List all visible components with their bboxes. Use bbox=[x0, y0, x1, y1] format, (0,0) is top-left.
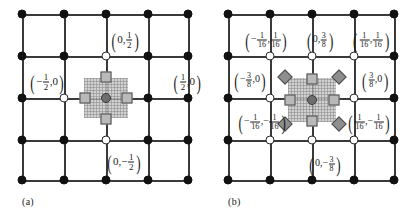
grid-node-open bbox=[144, 94, 153, 103]
fraction-one-sixteenth: 116 bbox=[257, 31, 267, 48]
grid-node-filled bbox=[144, 176, 153, 185]
fraction-one-sixteenth: 116 bbox=[271, 31, 281, 48]
grid-node-filled bbox=[102, 10, 111, 19]
grid-node-open bbox=[60, 94, 69, 103]
grid-node-open bbox=[350, 52, 359, 61]
grid-node-filled bbox=[224, 94, 233, 103]
stencil-square-east bbox=[122, 93, 133, 104]
fraction-one-half: 12 bbox=[128, 152, 135, 171]
stencil-square-west bbox=[285, 95, 296, 106]
grid-b: (−116,116) (0,38) (116,116) (−38,0) (38,… bbox=[228, 14, 396, 182]
grid-node-filled bbox=[18, 136, 27, 145]
stencil-square-west bbox=[80, 93, 91, 104]
grid-node-filled bbox=[390, 94, 399, 103]
grid-node-filled bbox=[60, 136, 69, 145]
label-west: (−38,0) bbox=[233, 72, 267, 89]
coord-y: 0 bbox=[52, 75, 58, 87]
fraction-one-sixteenth: 116 bbox=[373, 31, 383, 48]
coord-y: 0 bbox=[255, 73, 260, 84]
grid-node-filled bbox=[18, 10, 27, 19]
grid-node-filled bbox=[102, 176, 111, 185]
grid-node-filled bbox=[144, 52, 153, 61]
label-north: (0,38) bbox=[306, 32, 335, 49]
minus-sign: − bbox=[240, 73, 246, 84]
stencil-square-east bbox=[329, 95, 340, 106]
fraction-one-sixteenth: 116 bbox=[269, 113, 279, 130]
grid-node-filled bbox=[308, 10, 317, 19]
grid-node-filled bbox=[224, 176, 233, 185]
stencil-square-south bbox=[101, 114, 112, 125]
minus-sign: − bbox=[244, 115, 250, 126]
grid-node-filled bbox=[350, 176, 359, 185]
grid-node-filled bbox=[224, 10, 233, 19]
label-southeast: (116,−116) bbox=[347, 114, 391, 131]
label-west: (−12,0) bbox=[29, 73, 65, 92]
stencil-square-north bbox=[307, 74, 318, 85]
fraction-one-sixteenth: 116 bbox=[354, 113, 364, 130]
minus-sign: − bbox=[322, 157, 328, 168]
panel-caption-a: (a) bbox=[22, 196, 34, 207]
minus-sign: − bbox=[36, 75, 42, 87]
grid-node-open bbox=[350, 94, 359, 103]
grid-node-filled bbox=[60, 10, 69, 19]
panel-b: (−116,116) (0,38) (116,116) (−38,0) (38,… bbox=[210, 0, 420, 224]
figure-root: (0,12) (−12,0) (12,0) (0,−12) (a) bbox=[0, 0, 420, 224]
coord-y: 0 bbox=[189, 75, 195, 87]
grid-node-filled bbox=[390, 52, 399, 61]
grid-node-filled bbox=[60, 52, 69, 61]
grid-a: (0,12) (−12,0) (12,0) (0,−12) bbox=[22, 14, 190, 182]
grid-node-open bbox=[308, 136, 317, 145]
grid-node-filled bbox=[184, 136, 193, 145]
panel-caption-b: (b) bbox=[228, 196, 241, 207]
grid-node-filled bbox=[350, 10, 359, 19]
fraction-three-eighths: 38 bbox=[368, 71, 374, 88]
coord-y: 0 bbox=[377, 73, 382, 84]
fraction-one-half: 12 bbox=[43, 72, 50, 91]
grid-node-open bbox=[266, 94, 275, 103]
grid-node-filled bbox=[184, 52, 193, 61]
grid-node-filled bbox=[18, 52, 27, 61]
grid-node-filled bbox=[266, 10, 275, 19]
grid-node-open bbox=[308, 52, 317, 61]
grid-node-filled bbox=[390, 136, 399, 145]
grid-node-filled bbox=[184, 94, 193, 103]
fraction-one-sixteenth: 116 bbox=[374, 113, 384, 130]
grid-node-open bbox=[102, 136, 111, 145]
panel-a: (0,12) (−12,0) (12,0) (0,−12) (a) bbox=[0, 0, 210, 224]
fraction-one-sixteenth: 116 bbox=[250, 113, 260, 130]
grid-node-open bbox=[350, 136, 359, 145]
label-south: (0,−38) bbox=[308, 156, 342, 173]
minus-sign: − bbox=[263, 115, 269, 126]
fraction-three-eighths: 38 bbox=[321, 31, 327, 48]
stencil-center-circle bbox=[307, 95, 317, 105]
label-east: (38,0) bbox=[361, 72, 390, 89]
label-north: (0,12) bbox=[110, 31, 140, 50]
grid-node-open bbox=[266, 136, 275, 145]
grid-node-open bbox=[266, 52, 275, 61]
grid-node-filled bbox=[144, 136, 153, 145]
label-south: (0,−12) bbox=[106, 153, 142, 172]
minus-sign: − bbox=[367, 115, 373, 126]
label-southwest: (−116,−116) bbox=[237, 114, 287, 131]
stencil-center-circle bbox=[101, 93, 111, 103]
grid-node-filled bbox=[18, 94, 27, 103]
label-northeast: (116,116) bbox=[352, 32, 391, 49]
fraction-one-half: 12 bbox=[126, 30, 133, 49]
grid-node-filled bbox=[60, 176, 69, 185]
minus-sign: − bbox=[121, 155, 127, 167]
fraction-three-eighths: 38 bbox=[329, 155, 335, 172]
fraction-one-half: 12 bbox=[180, 72, 187, 91]
stencil-square-north bbox=[101, 72, 112, 83]
grid-node-open bbox=[102, 52, 111, 61]
stencil-square-south bbox=[307, 116, 318, 127]
grid-node-filled bbox=[390, 176, 399, 185]
grid-node-filled bbox=[18, 176, 27, 185]
grid-node-filled bbox=[390, 10, 399, 19]
grid-node-filled bbox=[224, 52, 233, 61]
minus-sign: − bbox=[251, 33, 257, 44]
grid-node-filled bbox=[224, 136, 233, 145]
label-northwest: (−116,116) bbox=[244, 32, 288, 49]
label-east: (12,0) bbox=[172, 73, 202, 92]
grid-node-filled bbox=[266, 176, 275, 185]
fraction-three-eighths: 38 bbox=[246, 71, 252, 88]
